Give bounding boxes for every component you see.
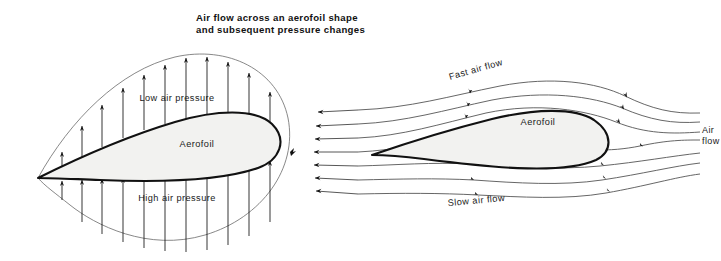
figure-title: Air flow across an aerofoil shape and su… bbox=[196, 12, 365, 35]
right-streamline-panel: Aerofoil Fast air flow Slow air flow Air… bbox=[358, 57, 720, 208]
inflow-line bbox=[316, 191, 358, 194]
high-air-pressure-label: High air pressure bbox=[138, 193, 216, 203]
streamline bbox=[358, 81, 700, 113]
streamline-arrowhead bbox=[599, 162, 604, 166]
slow-air-flow-label: Slow air flow bbox=[447, 193, 505, 208]
exit-air-flow-label: Air flow bbox=[702, 125, 720, 146]
streamline-arrowhead bbox=[623, 92, 627, 98]
low-air-pressure-label: Low air pressure bbox=[139, 93, 214, 103]
inflow-line bbox=[314, 165, 358, 166]
inflow-line bbox=[318, 110, 358, 112]
left-aerofoil-label: Aerofoil bbox=[180, 139, 215, 149]
streamline-arrowhead bbox=[605, 188, 610, 192]
left-pressure-panel: Aerofoil Low air pressure High air press… bbox=[38, 54, 290, 252]
streamline-arrowhead bbox=[601, 175, 606, 179]
left-aerofoil-shape bbox=[38, 113, 280, 181]
streamline-arrowhead bbox=[620, 104, 624, 109]
figure-title-line-1: Air flow across an aerofoil shape bbox=[196, 12, 358, 23]
inflow-line bbox=[315, 178, 358, 180]
streamline bbox=[358, 174, 700, 197]
stagnation-tick-icon bbox=[290, 148, 296, 156]
right-aerofoil-shape bbox=[372, 111, 609, 169]
inflow-line bbox=[315, 138, 358, 139]
right-aerofoil-label: Aerofoil bbox=[521, 117, 556, 127]
exit-air-flow-label-line-2: flow bbox=[702, 136, 720, 146]
inflow-line bbox=[316, 124, 358, 126]
fast-air-flow-label: Fast air flow bbox=[448, 57, 504, 82]
incoming-air-arrow-group bbox=[290, 110, 358, 194]
aerofoil-figure: Air flow across an aerofoil shape and su… bbox=[0, 0, 721, 261]
figure-title-line-2: and subsequent pressure changes bbox=[196, 24, 365, 35]
exit-air-flow-label-line-1: Air bbox=[702, 125, 714, 135]
